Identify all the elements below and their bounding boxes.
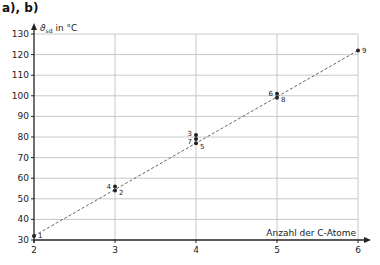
x-tick-label: 5 bbox=[274, 245, 280, 255]
data-points: 123456789 bbox=[32, 47, 366, 240]
data-point-label: 6 bbox=[269, 90, 274, 98]
axes bbox=[31, 23, 371, 243]
y-tick-label: 120 bbox=[12, 50, 29, 60]
data-point bbox=[113, 184, 117, 188]
data-point-label: 2 bbox=[119, 189, 123, 197]
y-tick-label: 90 bbox=[18, 111, 30, 121]
grid-lines bbox=[34, 34, 358, 240]
data-point bbox=[194, 141, 198, 145]
data-point bbox=[275, 92, 279, 96]
x-tick-label: 6 bbox=[355, 245, 361, 255]
y-tick-label: 40 bbox=[18, 214, 30, 224]
data-point bbox=[113, 189, 117, 193]
data-point-label: 4 bbox=[107, 183, 112, 191]
data-point-label: 1 bbox=[38, 232, 42, 240]
data-point-label: 8 bbox=[281, 96, 285, 104]
y-tick-label: 130 bbox=[12, 29, 29, 39]
data-point-label: 7 bbox=[188, 138, 192, 146]
tick-labels: 3040506070809010011012013023456 bbox=[12, 29, 361, 255]
scatter-chart: 3040506070809010011012013023456 12345678… bbox=[0, 0, 380, 265]
y-tick-label: 70 bbox=[18, 153, 30, 163]
data-point bbox=[356, 48, 360, 52]
y-axis-title: ϑsd in °C bbox=[40, 23, 77, 34]
data-point bbox=[194, 133, 198, 137]
y-tick-label: 80 bbox=[18, 132, 30, 142]
y-tick-label: 50 bbox=[18, 194, 30, 204]
data-point bbox=[194, 137, 198, 141]
y-tick-label: 100 bbox=[12, 91, 29, 101]
data-point-label: 9 bbox=[362, 47, 366, 55]
x-axis-title: Anzahl der C-Atome bbox=[266, 228, 356, 238]
x-axis-arrow-icon bbox=[364, 237, 371, 243]
y-tick-label: 110 bbox=[12, 70, 29, 80]
y-tick-label: 60 bbox=[18, 173, 30, 183]
data-point bbox=[275, 96, 279, 100]
y-axis-arrow-icon bbox=[31, 23, 37, 30]
y-tick-label: 30 bbox=[18, 235, 30, 245]
x-tick-label: 3 bbox=[112, 245, 118, 255]
data-point-label: 5 bbox=[200, 143, 204, 151]
x-tick-label: 2 bbox=[31, 245, 37, 255]
x-tick-label: 4 bbox=[193, 245, 199, 255]
data-point bbox=[32, 234, 36, 238]
